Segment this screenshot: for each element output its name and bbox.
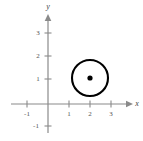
x-axis-arrow-icon: [126, 101, 133, 108]
y-axis-label: y: [45, 2, 50, 11]
plot-canvas: -1 1 2 3 3 2 1 -1 x y: [0, 0, 143, 141]
x-axis-label: x: [134, 99, 139, 108]
center-point-marker: [87, 75, 92, 80]
x-tick-labels-group: -1 1 2 3: [24, 110, 113, 118]
coordinate-plane-figure: -1 1 2 3 3 2 1 -1 x y: [0, 0, 143, 141]
x-tick-label-minus-one: -1: [24, 110, 30, 118]
y-tick-label-one: 1: [36, 75, 40, 83]
y-tick-label-minus-one: -1: [33, 122, 39, 130]
y-axis-arrow-icon: [45, 14, 52, 21]
y-tick-labels-group: 3 2 1 -1: [33, 29, 40, 130]
x-tick-label-two: 2: [88, 110, 92, 118]
y-tick-label-two: 2: [36, 52, 40, 60]
x-tick-label-one: 1: [67, 110, 71, 118]
x-tick-label-three: 3: [109, 110, 113, 118]
y-tick-label-three: 3: [36, 29, 40, 37]
